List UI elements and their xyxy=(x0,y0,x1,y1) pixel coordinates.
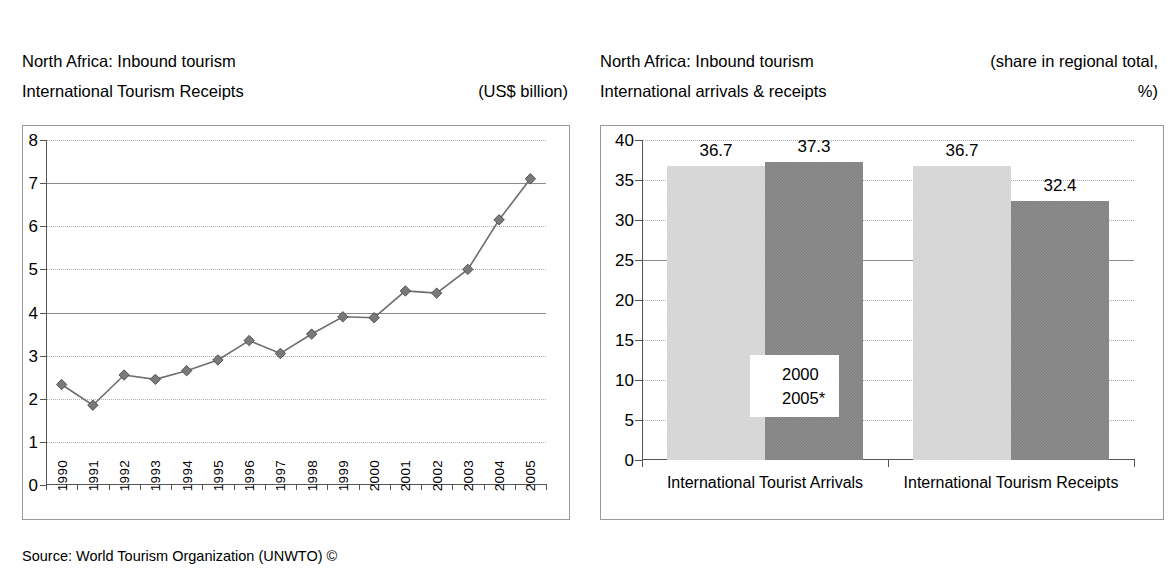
right-chart-unit-note-line1: (share in regional total, xyxy=(990,46,1158,76)
y-tick-label: 2 xyxy=(6,390,38,407)
left-heading-row-1: North Africa: Inbound tourism xyxy=(22,46,570,76)
data-point-marker xyxy=(275,348,285,358)
x-tick-mark xyxy=(296,484,297,490)
group-tick-mark xyxy=(642,459,643,467)
bar-value-label: 36.7 xyxy=(699,141,732,161)
y-tick-label: 25 xyxy=(596,252,634,269)
x-tick-label: 2004 xyxy=(492,460,507,491)
legend-label-2005: 2005* xyxy=(782,389,825,408)
x-tick-label: 1997 xyxy=(273,460,288,491)
x-tick-mark xyxy=(484,484,485,490)
left-chart-unit-note: (US$ billion) xyxy=(478,76,568,106)
x-tick-label: 1995 xyxy=(211,460,226,491)
x-tick-label: 1990 xyxy=(55,460,70,491)
data-point-marker xyxy=(306,329,316,339)
x-tick-label: 1991 xyxy=(86,460,101,491)
y-tick-label: 40 xyxy=(596,132,634,149)
y-tick-mark xyxy=(635,260,643,261)
left-chart-panel: North Africa: Inbound tourism Internatio… xyxy=(0,0,590,577)
data-point-marker xyxy=(213,355,223,365)
left-chart-source: Source: World Tourism Organization (UNWT… xyxy=(22,548,337,564)
y-tick-mark xyxy=(635,380,643,381)
right-chart-panel: North Africa: Inbound tourism (share in … xyxy=(590,0,1174,577)
x-tick-mark xyxy=(140,484,141,490)
y-tick-label: 4 xyxy=(6,304,38,321)
x-tick-mark xyxy=(171,484,172,490)
bar-value-label: 36.7 xyxy=(945,141,978,161)
x-tick-mark xyxy=(452,484,453,490)
y-tick-mark xyxy=(635,220,643,221)
x-tick-mark xyxy=(390,484,391,490)
y-tick-label: 0 xyxy=(6,477,38,494)
y-tick-label: 5 xyxy=(6,261,38,278)
x-tick-label: 1998 xyxy=(305,460,320,491)
x-tick-label: 1992 xyxy=(117,460,132,491)
x-tick-label: 2000 xyxy=(367,460,382,491)
legend-item-2005: 2005* xyxy=(758,386,825,410)
legend-label-2000: 2000 xyxy=(782,365,819,384)
x-tick-label: 1999 xyxy=(336,460,351,491)
bar-chart-plot: 0510152025303540 36.737.336.732.4 Intern… xyxy=(642,140,1134,460)
y-tick-label: 35 xyxy=(596,172,634,189)
line-chart-series xyxy=(46,140,546,485)
data-point-marker xyxy=(181,366,191,376)
y-tick-label: 8 xyxy=(6,132,38,149)
y-tick-mark xyxy=(635,420,643,421)
left-chart-title-line2: International Tourism Receipts xyxy=(22,76,244,106)
y-tick-label: 0 xyxy=(596,452,634,469)
y-tick-label: 6 xyxy=(6,218,38,235)
x-tick-mark xyxy=(46,484,47,490)
bar-value-label: 37.3 xyxy=(797,137,830,157)
y-tick-label: 1 xyxy=(6,433,38,450)
bar xyxy=(1011,201,1109,460)
legend-swatch-2005 xyxy=(758,391,773,406)
bar-value-label: 32.4 xyxy=(1043,176,1076,196)
x-tick-mark xyxy=(421,484,422,490)
y-tick-label: 3 xyxy=(6,347,38,364)
y-tick-label: 5 xyxy=(596,412,634,429)
x-tick-label: 2001 xyxy=(398,460,413,491)
y-tick-label: 10 xyxy=(596,372,634,389)
x-tick-mark xyxy=(515,484,516,490)
x-tick-mark xyxy=(109,484,110,490)
right-chart-title-line2: International arrivals & receipts xyxy=(600,76,827,106)
data-point-marker xyxy=(244,335,254,345)
line-path xyxy=(62,179,531,405)
category-label: International Tourism Receipts xyxy=(904,474,1119,492)
y-tick-mark xyxy=(635,180,643,181)
y-tick-mark xyxy=(635,300,643,301)
x-tick-mark xyxy=(77,484,78,490)
legend-swatch-2000 xyxy=(758,367,773,382)
legend-item-2000: 2000 xyxy=(758,362,825,386)
right-chart-heading: North Africa: Inbound tourism (share in … xyxy=(600,46,1164,106)
left-heading-row-2: International Tourism Receipts (US$ bill… xyxy=(22,76,570,106)
x-tick-mark xyxy=(359,484,360,490)
group-tick-mark xyxy=(1134,459,1135,467)
x-tick-mark xyxy=(546,484,547,490)
right-heading-row-1: North Africa: Inbound tourism (share in … xyxy=(600,46,1164,76)
y-tick-label: 30 xyxy=(596,212,634,229)
y-tick-mark xyxy=(635,140,643,141)
data-point-marker xyxy=(338,312,348,322)
x-tick-mark xyxy=(265,484,266,490)
x-tick-mark xyxy=(327,484,328,490)
x-tick-label: 1993 xyxy=(148,460,163,491)
x-tick-mark xyxy=(234,484,235,490)
left-chart-heading: North Africa: Inbound tourism Internatio… xyxy=(22,46,570,106)
right-heading-row-2: International arrivals & receipts %) xyxy=(600,76,1164,106)
bar xyxy=(913,166,1011,460)
x-tick-label: 1994 xyxy=(180,460,195,491)
x-tick-label: 2003 xyxy=(461,460,476,491)
right-chart-unit-note-line2: %) xyxy=(1138,76,1158,106)
y-tick-mark xyxy=(635,340,643,341)
line-chart-plot: 012345678 199019911992199319941995199619… xyxy=(46,140,546,485)
x-tick-label: 2005 xyxy=(523,460,538,491)
figure-page: North Africa: Inbound tourism Internatio… xyxy=(0,0,1174,577)
left-chart-title-line1: North Africa: Inbound tourism xyxy=(22,46,236,76)
bar-chart-legend: 2000 2005* xyxy=(750,355,839,417)
x-tick-mark xyxy=(202,484,203,490)
category-label: International Tourist Arrivals xyxy=(667,474,863,492)
y-tick-label: 7 xyxy=(6,175,38,192)
x-tick-label: 1996 xyxy=(242,460,257,491)
x-tick-label: 2002 xyxy=(430,460,445,491)
